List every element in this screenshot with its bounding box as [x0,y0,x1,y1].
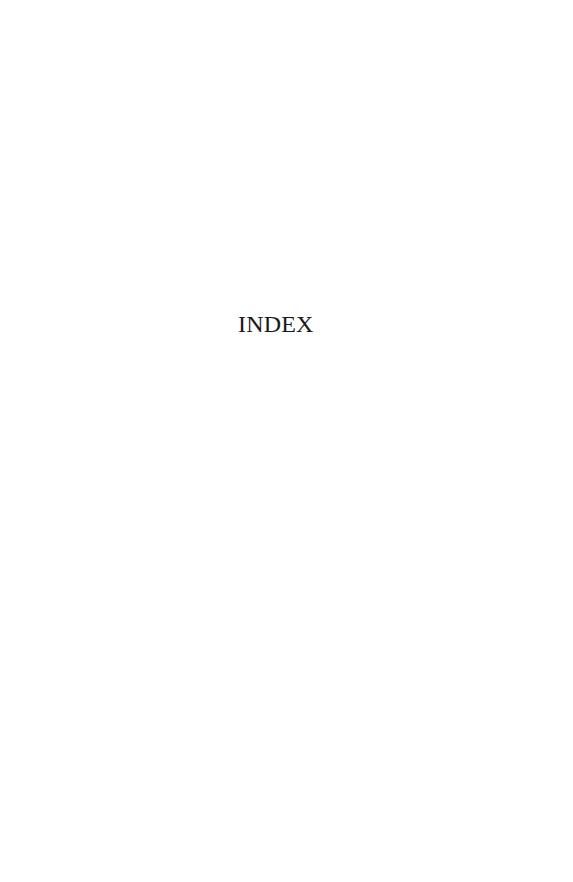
page-title: INDEX [238,310,314,338]
document-page: INDEX [0,0,573,882]
